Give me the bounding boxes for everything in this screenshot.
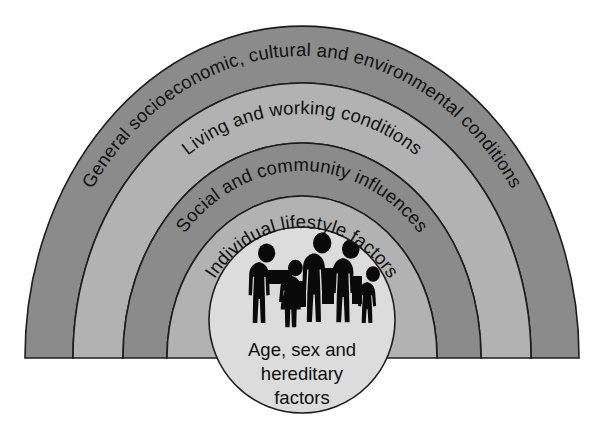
core-label-line-1: Age, sex and xyxy=(248,339,356,360)
rainbow-diagram-canvas: General socioeconomic, cultural and envi… xyxy=(0,0,600,426)
core-label-line-2: hereditary xyxy=(261,363,344,384)
core-label-line-3: factors xyxy=(274,387,330,408)
rainbow-model-figure: General socioeconomic, cultural and envi… xyxy=(0,0,600,426)
